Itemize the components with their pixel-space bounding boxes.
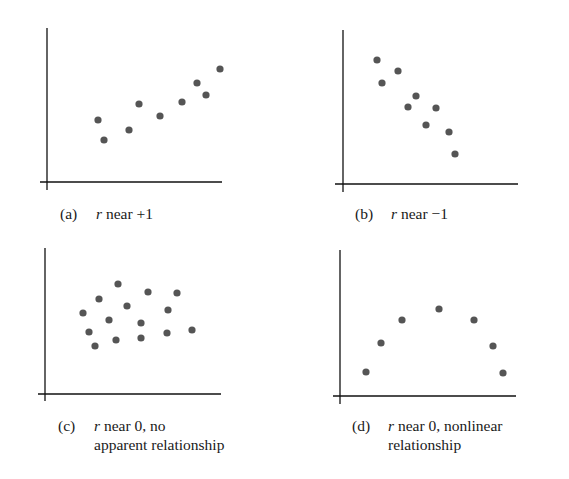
caption-text: near +1 bbox=[102, 205, 153, 222]
caption-tag: (d) bbox=[352, 416, 388, 435]
data-point bbox=[432, 104, 439, 111]
scatter-figure bbox=[0, 0, 569, 479]
data-point bbox=[125, 126, 132, 133]
data-point bbox=[100, 136, 107, 143]
caption-text-line2: apparent relationship bbox=[58, 435, 224, 454]
scatter-plot-b bbox=[335, 30, 518, 192]
scatter-plot-a bbox=[40, 28, 224, 190]
caption-b: (b)r near −1 bbox=[355, 204, 448, 223]
data-point bbox=[499, 369, 506, 376]
caption-text-line2: relationship bbox=[352, 435, 503, 454]
caption-tag: (c) bbox=[58, 416, 94, 435]
caption-tag: (b) bbox=[355, 204, 391, 223]
caption-text: near 0, nonlinear bbox=[394, 417, 502, 434]
data-point bbox=[137, 319, 144, 326]
data-point bbox=[394, 67, 401, 74]
data-point bbox=[112, 336, 119, 343]
data-point bbox=[378, 79, 385, 86]
data-point bbox=[489, 342, 496, 349]
data-point bbox=[377, 339, 384, 346]
caption-text: near −1 bbox=[397, 205, 448, 222]
caption-a: (a)r near +1 bbox=[60, 204, 153, 223]
data-point bbox=[216, 65, 223, 72]
data-point bbox=[178, 98, 185, 105]
data-point bbox=[144, 288, 151, 295]
scatter-plot-c bbox=[38, 248, 221, 401]
data-point bbox=[362, 368, 369, 375]
data-point bbox=[105, 316, 112, 323]
data-point bbox=[135, 100, 142, 107]
data-point bbox=[470, 316, 477, 323]
scatter-plot-d bbox=[333, 250, 516, 404]
data-point bbox=[79, 309, 86, 316]
data-point bbox=[164, 306, 171, 313]
data-point bbox=[91, 342, 98, 349]
caption-text: near 0, no bbox=[100, 417, 165, 434]
data-point bbox=[173, 289, 180, 296]
data-point bbox=[156, 112, 163, 119]
data-point bbox=[123, 302, 130, 309]
data-point bbox=[114, 280, 121, 287]
data-point bbox=[202, 91, 209, 98]
caption-tag: (a) bbox=[60, 204, 96, 223]
data-point bbox=[95, 295, 102, 302]
data-point bbox=[398, 316, 405, 323]
data-point bbox=[193, 79, 200, 86]
data-point bbox=[137, 334, 144, 341]
data-point bbox=[188, 326, 195, 333]
data-point bbox=[404, 103, 411, 110]
data-point bbox=[435, 305, 442, 312]
data-point bbox=[451, 150, 458, 157]
data-point bbox=[412, 92, 419, 99]
data-point bbox=[163, 329, 170, 336]
data-point bbox=[94, 116, 101, 123]
data-point bbox=[373, 56, 380, 63]
data-point bbox=[445, 128, 452, 135]
caption-c: (c)r near 0, no apparent relationship bbox=[58, 416, 224, 454]
data-point bbox=[85, 328, 92, 335]
data-point bbox=[422, 121, 429, 128]
caption-d: (d)r near 0, nonlinear relationship bbox=[352, 416, 503, 454]
